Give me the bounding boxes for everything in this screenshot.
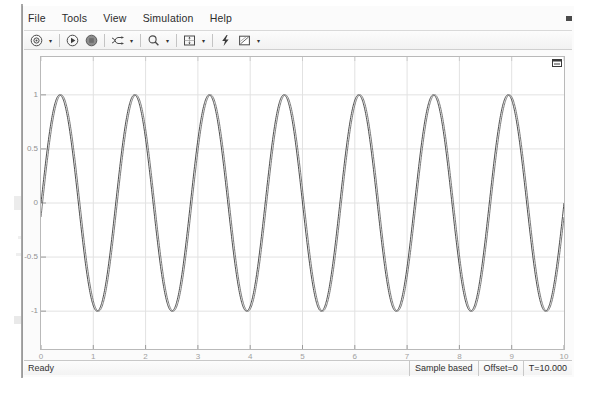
menu-simulation[interactable]: Simulation xyxy=(143,12,194,24)
y-tick-label: -0.5 xyxy=(12,253,38,261)
toolbar-separator xyxy=(212,34,213,47)
status-ready-label: Ready xyxy=(24,363,409,373)
autoscale-dropdown-arrow[interactable]: ▾ xyxy=(199,32,207,48)
signal-selection-button[interactable] xyxy=(109,32,126,48)
toolbar-separator xyxy=(104,34,105,47)
menu-view[interactable]: View xyxy=(103,12,126,24)
y-axis-tick-labels: 1 0.5 0 -0.5 -1 xyxy=(8,0,38,399)
toolbar-separator xyxy=(140,34,141,47)
menu-tools[interactable]: Tools xyxy=(62,12,88,24)
y-tick-label: -1 xyxy=(12,307,38,315)
run-button[interactable] xyxy=(64,32,81,48)
print-dropdown-arrow[interactable]: ▾ xyxy=(46,32,54,48)
zoom-dropdown-arrow[interactable]: ▾ xyxy=(163,32,171,48)
scope-plot-svg xyxy=(41,57,564,349)
maximize-axes-icon[interactable] xyxy=(551,58,562,67)
status-offset: Offset=0 xyxy=(478,361,523,376)
style-dropdown-arrow[interactable]: ▾ xyxy=(254,32,262,48)
status-time: T=10.000 xyxy=(523,361,572,376)
menu-help[interactable]: Help xyxy=(210,12,232,24)
menu-bar: File Tools View Simulation Help xyxy=(22,8,574,28)
y-tick-label: 0.5 xyxy=(12,145,38,153)
scope-window-screenshot: File Tools View Simulation Help ▾ xyxy=(0,0,592,399)
stop-button[interactable] xyxy=(83,32,100,48)
signal-selection-dropdown-arrow[interactable]: ▾ xyxy=(127,32,135,48)
y-tick-label: 0 xyxy=(12,199,38,207)
y-tick-label: 1 xyxy=(12,91,38,99)
scope-plot-area[interactable] xyxy=(40,56,565,350)
autoscale-button[interactable] xyxy=(181,32,198,48)
style-button[interactable] xyxy=(236,32,253,48)
zoom-button[interactable] xyxy=(145,32,162,48)
toolbar-separator xyxy=(176,34,177,47)
status-sample-mode: Sample based xyxy=(409,361,478,376)
status-bar: Ready Sample based Offset=0 T=10.000 xyxy=(24,360,572,375)
simulation-settings-button[interactable] xyxy=(217,32,234,48)
toolbar-separator xyxy=(59,34,60,47)
toolbar: ▾ ▾ xyxy=(24,30,572,50)
